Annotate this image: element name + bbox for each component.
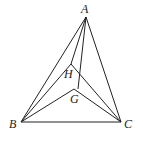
point-label-g: G xyxy=(70,93,79,105)
point-label-a: A xyxy=(81,3,88,15)
geometry-figure: A B C H G xyxy=(0,0,143,141)
point-label-h: H xyxy=(64,68,73,80)
point-label-b: B xyxy=(9,118,16,130)
segment-gc xyxy=(74,89,121,122)
segment-ac xyxy=(86,17,121,122)
segment-bg xyxy=(21,89,74,122)
point-label-c: C xyxy=(124,118,132,130)
